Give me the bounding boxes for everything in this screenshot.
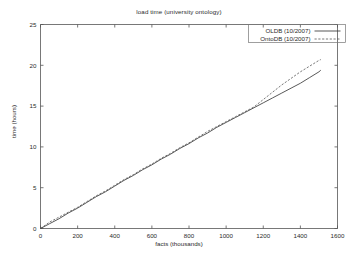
y-tick-label: 25 (30, 21, 37, 28)
x-tick-label: 0 (39, 232, 43, 239)
data-series-group (41, 60, 321, 229)
x-tick-label: 1400 (293, 232, 307, 239)
x-tick-label: 800 (184, 232, 195, 239)
x-tick-label: 600 (147, 232, 158, 239)
legend-label: OntoDB (10/2007) (260, 35, 310, 42)
series-line-oldb (41, 70, 321, 228)
legend-label: OLDB (10/2007) (265, 27, 310, 34)
x-axis-ticks: 02004006008001000120014001600 (39, 25, 345, 239)
plot-area: 02004006008001000120014001600 0510152025… (0, 0, 358, 258)
x-tick-label: 1000 (219, 232, 233, 239)
y-tick-label: 20 (30, 62, 37, 69)
x-axis-label: facts (thousands) (0, 240, 358, 247)
x-tick-label: 1200 (256, 232, 270, 239)
y-tick-label: 5 (33, 184, 37, 191)
x-tick-label: 400 (110, 232, 121, 239)
x-tick-label: 1600 (331, 232, 345, 239)
x-tick-label: 200 (72, 232, 83, 239)
y-axis-label: time (hours) (10, 87, 17, 157)
y-tick-label: 0 (33, 225, 37, 232)
y-tick-label: 15 (30, 102, 37, 109)
series-line-ontodb (41, 60, 321, 229)
y-tick-label: 10 (30, 143, 37, 150)
y-axis-ticks: 0510152025 (30, 21, 338, 232)
axis-frame (41, 25, 338, 229)
chart-container: load time (university ontology) 02004006… (0, 0, 358, 258)
